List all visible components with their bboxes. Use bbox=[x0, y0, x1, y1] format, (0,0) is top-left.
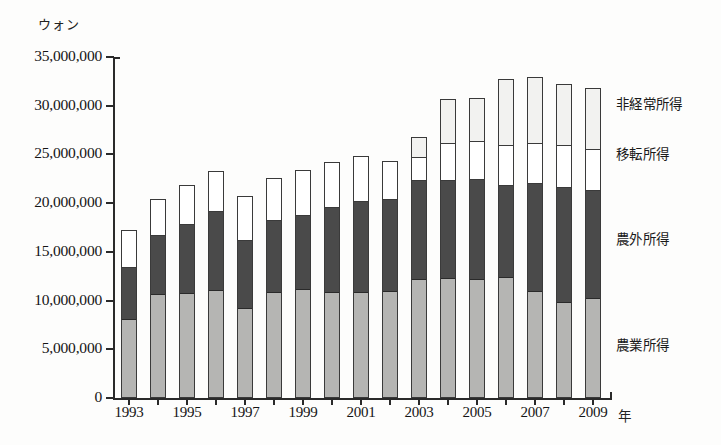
chart-container: ウォン 35,000,00030,000,00025,000,00020,000… bbox=[0, 0, 721, 445]
y-axis-tick-label: 10,000,000 bbox=[2, 291, 102, 309]
bar-1997 bbox=[237, 196, 253, 398]
bar-segment-農外所得 bbox=[441, 181, 455, 279]
legend-item-0: 非経常所得 bbox=[616, 93, 683, 113]
bar-segment-非経常所得 bbox=[470, 99, 484, 142]
bar-1993 bbox=[121, 230, 137, 398]
bar-2001 bbox=[353, 156, 369, 398]
x-axis-tick-label: 2001 bbox=[333, 404, 389, 421]
y-axis-labels: 35,000,00030,000,00025,000,00020,000,000… bbox=[0, 0, 102, 445]
bar-segment-移転所得 bbox=[354, 157, 368, 201]
bar-segment-移転所得 bbox=[122, 231, 136, 268]
bar-segment-移転所得 bbox=[586, 150, 600, 191]
bar-segment-農業所得 bbox=[267, 293, 281, 397]
bar-segment-農業所得 bbox=[180, 294, 194, 397]
legend: 非経常所得移転所得農外所得農業所得 bbox=[616, 0, 721, 445]
bar-segment-農外所得 bbox=[499, 186, 513, 278]
bar-2008 bbox=[556, 84, 572, 398]
bar-segment-農業所得 bbox=[412, 280, 426, 397]
bar-segment-非経常所得 bbox=[412, 138, 426, 158]
bar-segment-農業所得 bbox=[209, 291, 223, 397]
bar-segment-農業所得 bbox=[122, 320, 136, 397]
bar-2006 bbox=[498, 79, 514, 398]
legend-item-1: 移転所得 bbox=[616, 143, 669, 163]
bar-segment-移転所得 bbox=[151, 200, 165, 236]
bar-segment-移転所得 bbox=[383, 162, 397, 200]
x-axis-tick-label: 1999 bbox=[275, 404, 331, 421]
bar-1994 bbox=[150, 199, 166, 398]
bar-segment-農外所得 bbox=[528, 184, 542, 292]
bar-segment-農外所得 bbox=[557, 188, 571, 303]
bar-segment-農外所得 bbox=[470, 180, 484, 280]
x-axis-end-cap bbox=[610, 392, 612, 400]
bar-segment-農外所得 bbox=[122, 268, 136, 320]
bar-segment-農外所得 bbox=[586, 191, 600, 299]
x-axis-tick-label: 1995 bbox=[159, 404, 215, 421]
bar-2007 bbox=[527, 77, 543, 399]
bar-segment-農業所得 bbox=[238, 309, 252, 397]
x-axis-tick-label: 2009 bbox=[565, 404, 621, 421]
y-axis-tick-label: 35,000,000 bbox=[2, 47, 102, 65]
y-axis-tick-label: 0 bbox=[2, 388, 102, 406]
y-axis-tick-label: 30,000,000 bbox=[2, 96, 102, 114]
bar-segment-農業所得 bbox=[296, 290, 310, 397]
bar-segment-農業所得 bbox=[383, 292, 397, 397]
bar-1999 bbox=[295, 170, 311, 398]
bar-segment-移転所得 bbox=[528, 144, 542, 184]
y-axis-tick-label: 5,000,000 bbox=[2, 339, 102, 357]
x-axis-tick-label: 2005 bbox=[449, 404, 505, 421]
bar-segment-農業所得 bbox=[586, 299, 600, 397]
bar-2004 bbox=[440, 99, 456, 398]
legend-item-3: 農業所得 bbox=[616, 334, 669, 354]
bar-segment-非経常所得 bbox=[557, 85, 571, 146]
bar-segment-移転所得 bbox=[557, 146, 571, 188]
bar-segment-農業所得 bbox=[470, 280, 484, 397]
bar-segment-農業所得 bbox=[151, 295, 165, 397]
bar-segment-移転所得 bbox=[441, 144, 455, 181]
bar-2000 bbox=[324, 162, 340, 398]
bar-segment-非経常所得 bbox=[441, 100, 455, 145]
bar-segment-農外所得 bbox=[296, 216, 310, 289]
bar-segment-移転所得 bbox=[412, 158, 426, 181]
bar-segment-非経常所得 bbox=[586, 89, 600, 150]
bar-2003 bbox=[411, 137, 427, 398]
bar-segment-農外所得 bbox=[209, 212, 223, 291]
bar-segment-農業所得 bbox=[528, 292, 542, 397]
bar-segment-移転所得 bbox=[209, 172, 223, 212]
y-axis-tick-label: 20,000,000 bbox=[2, 193, 102, 211]
y-axis-tick-label: 25,000,000 bbox=[2, 144, 102, 162]
bar-segment-農外所得 bbox=[267, 221, 281, 292]
bar-segment-農業所得 bbox=[354, 293, 368, 397]
x-axis-tick-label: 1993 bbox=[101, 404, 157, 421]
bar-segment-農外所得 bbox=[180, 225, 194, 294]
bar-segment-非経常所得 bbox=[499, 80, 513, 146]
bar-segment-農業所得 bbox=[557, 303, 571, 397]
bar-segment-移転所得 bbox=[267, 179, 281, 221]
cropped-caption-top bbox=[104, 0, 574, 7]
x-axis-tick-label: 1997 bbox=[217, 404, 273, 421]
bar-1998 bbox=[266, 178, 282, 398]
bar-segment-農業所得 bbox=[325, 293, 339, 397]
x-axis-tick-label: 2007 bbox=[507, 404, 563, 421]
bar-segment-移転所得 bbox=[180, 186, 194, 226]
bar-group bbox=[113, 57, 610, 398]
bar-segment-移転所得 bbox=[296, 171, 310, 216]
bar-1995 bbox=[179, 185, 195, 398]
bar-segment-農外所得 bbox=[354, 202, 368, 293]
bar-segment-移転所得 bbox=[470, 142, 484, 181]
bar-segment-非経常所得 bbox=[528, 78, 542, 145]
bar-segment-移転所得 bbox=[325, 163, 339, 207]
bar-segment-移転所得 bbox=[499, 146, 513, 186]
bar-2002 bbox=[382, 161, 398, 398]
bar-segment-農外所得 bbox=[151, 236, 165, 295]
cropped-caption-bottom bbox=[300, 436, 720, 445]
bar-segment-農外所得 bbox=[383, 200, 397, 292]
bar-2005 bbox=[469, 98, 485, 398]
bar-segment-農外所得 bbox=[412, 181, 426, 280]
x-axis-tick-label: 2003 bbox=[391, 404, 447, 421]
bar-segment-農外所得 bbox=[325, 208, 339, 293]
y-axis-tick-label: 15,000,000 bbox=[2, 242, 102, 260]
bar-segment-農業所得 bbox=[441, 279, 455, 397]
bar-segment-農業所得 bbox=[499, 278, 513, 397]
bar-segment-農外所得 bbox=[238, 241, 252, 310]
bar-1996 bbox=[208, 171, 224, 398]
